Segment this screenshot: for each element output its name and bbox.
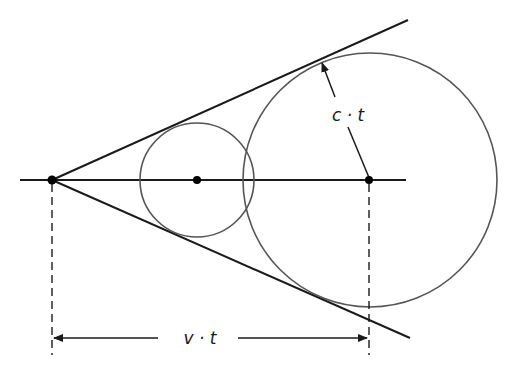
apex-point [48,176,57,185]
radius-arrow [322,63,335,97]
mach-cone-diagram: c · t v · t [0,0,525,367]
small-center-point [193,176,201,184]
upper-tangent-line [52,20,408,180]
radius-label: c · t [332,105,366,125]
large-center-point [365,176,373,184]
radius-line-lower [348,127,370,180]
lower-tangent-line [52,180,410,338]
distance-label: v · t [184,328,218,348]
